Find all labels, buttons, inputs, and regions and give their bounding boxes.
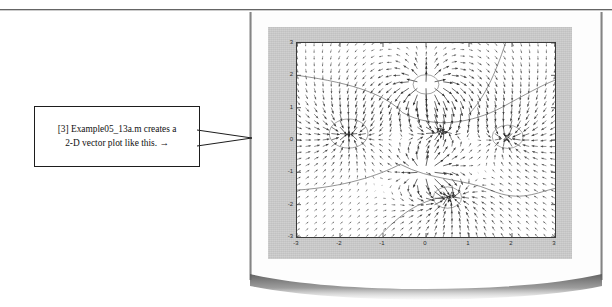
book-page-edge-right bbox=[600, 12, 603, 280]
callout-line-1: [3] Example05_13a.m creates a bbox=[41, 122, 193, 137]
x-tick-label: -2 bbox=[336, 240, 341, 246]
y-tick-label: 2 bbox=[290, 71, 293, 77]
vector-field-canvas bbox=[297, 43, 555, 237]
y-tick-label: 1 bbox=[290, 104, 293, 110]
y-tick-label: 0 bbox=[290, 136, 293, 142]
x-tick-label: -1 bbox=[379, 240, 384, 246]
x-tick-label: -3 bbox=[293, 240, 298, 246]
y-tick-label: -3 bbox=[288, 233, 293, 239]
callout-leader-line bbox=[196, 108, 258, 168]
x-tick-label: 1 bbox=[466, 240, 469, 246]
page-root: -3-2-10123-3-2-10123 [3] Example05_13a.m… bbox=[0, 0, 612, 307]
callout-text: [3] Example05_13a.m creates a 2-D vector… bbox=[35, 122, 199, 151]
y-tick-label: 3 bbox=[290, 39, 293, 45]
book-bottom-shadow bbox=[246, 272, 606, 302]
callout-box: [3] Example05_13a.m creates a 2-D vector… bbox=[34, 106, 200, 167]
y-tick-label: -1 bbox=[288, 168, 293, 174]
page-top-rule-shadow bbox=[0, 10, 612, 11]
callout-line-2: 2-D vector plot like this. → bbox=[41, 137, 193, 152]
x-tick-label: 3 bbox=[552, 240, 555, 246]
x-tick-label: 2 bbox=[509, 240, 512, 246]
x-tick-label: 0 bbox=[423, 240, 426, 246]
vector-plot-axes bbox=[296, 42, 556, 238]
y-tick-label: -2 bbox=[288, 201, 293, 207]
